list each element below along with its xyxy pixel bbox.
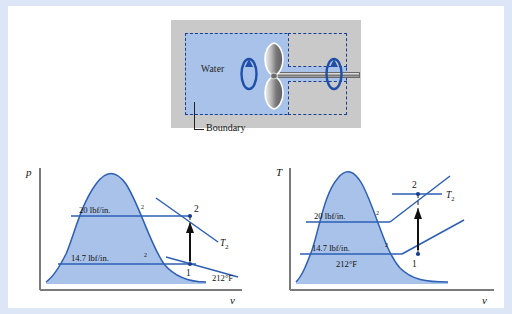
v-axis-label-right: v [482, 294, 487, 306]
p-axis-label: p [25, 166, 32, 178]
T-axis-label: T [276, 166, 283, 178]
rotation-arrow-inner-icon [238, 50, 260, 96]
pressure-line-14-7-superheat [402, 220, 464, 254]
boundary-label: Boundary [206, 122, 245, 133]
isotherm-T2-line [156, 198, 218, 242]
state-label-1-Tv: 1 [412, 259, 417, 269]
pressure-label-14-7-sup: 2 [144, 252, 147, 258]
state-label-1: 1 [186, 268, 191, 278]
state-point-1-marker-Tv [416, 252, 420, 256]
rotation-arrow-outer-icon [323, 50, 345, 96]
pressure-label-20-sup-Tv: 2 [376, 210, 379, 216]
boundary-leader-tick [194, 129, 204, 130]
process-arrow-head-Tv [414, 208, 422, 219]
paddle-wheel-icon [260, 41, 288, 111]
isotherm-label-T2: T2 [220, 238, 229, 250]
figure-panel: Water [8, 6, 504, 308]
temperature-label-212F-Tv: 212°F [336, 259, 357, 269]
T-v-diagram: T v 20 lbf/in. 2 14.7 lbf/in. 2 212°F 2 … [266, 154, 510, 306]
pressure-label-20-sup: 2 [141, 204, 144, 210]
isotherm-label-212F: 212°F [212, 273, 233, 283]
state-label-2-Tv: 2 [412, 180, 417, 190]
state-label-2: 2 [194, 204, 199, 214]
v-axis-label-left: v [230, 294, 235, 306]
state-point-1-marker [188, 262, 192, 266]
pressure-label-14-7-sup-Tv: 2 [385, 242, 388, 248]
boundary-leader-line [194, 102, 195, 130]
paddle-wheel-apparatus: Water [171, 20, 361, 128]
water-label: Water [201, 64, 224, 74]
pressure-label-20: 20 lbf/in. [79, 205, 111, 215]
figure-canvas: Water [0, 0, 512, 314]
temperature-label-T2-Tv: T2 [446, 190, 455, 202]
p-v-diagram: p v 20 lbf/in. 2 14.7 lbf/in. 2 2 1 T2 2… [16, 154, 260, 306]
saturation-dome-fill [46, 174, 206, 285]
pressure-label-14-7-Tv: 14.7 lbf/in. [312, 243, 350, 253]
state-point-2-marker [188, 214, 192, 218]
state-point-2-marker-Tv [416, 192, 420, 196]
pressure-label-20-Tv: 20 lbf/in. [314, 211, 346, 221]
pressure-label-14-7: 14.7 lbf/in. [71, 253, 109, 263]
